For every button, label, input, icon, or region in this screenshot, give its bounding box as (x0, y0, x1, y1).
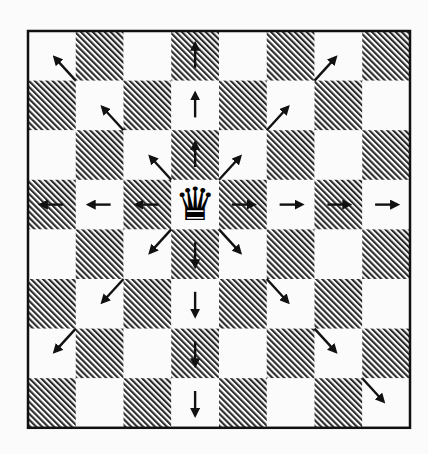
dark-square (362, 329, 410, 379)
light-square (28, 130, 76, 180)
dark-square (76, 130, 124, 180)
dark-square (28, 378, 76, 428)
dark-square (124, 81, 172, 131)
dark-square (362, 31, 410, 81)
light-square (267, 378, 315, 428)
dark-square (28, 279, 76, 329)
dark-square (267, 31, 315, 81)
dark-square (219, 279, 267, 329)
light-square (219, 31, 267, 81)
dark-square (315, 81, 363, 131)
chessboard: ♛ (0, 0, 428, 454)
light-square (219, 329, 267, 379)
dark-square (76, 329, 124, 379)
light-square (124, 329, 172, 379)
light-square (362, 81, 410, 131)
dark-square (267, 130, 315, 180)
queen-icon: ♛ (175, 177, 216, 231)
dark-square (362, 130, 410, 180)
dark-square (76, 31, 124, 81)
diagram-stage: Queen movement on a chessboard ♛ (0, 0, 428, 454)
dark-square (267, 329, 315, 379)
light-square (362, 279, 410, 329)
dark-square (219, 81, 267, 131)
light-square (124, 31, 172, 81)
dark-square (267, 229, 315, 279)
light-square (28, 229, 76, 279)
dark-square (315, 279, 363, 329)
dark-square (28, 81, 76, 131)
piece-layer: ♛ (175, 177, 216, 231)
dark-square (124, 279, 172, 329)
dark-square (124, 378, 172, 428)
light-square (315, 229, 363, 279)
light-square (76, 378, 124, 428)
dark-square (219, 378, 267, 428)
dark-square (76, 229, 124, 279)
dark-square (315, 378, 363, 428)
light-square (315, 130, 363, 180)
dark-square (362, 229, 410, 279)
